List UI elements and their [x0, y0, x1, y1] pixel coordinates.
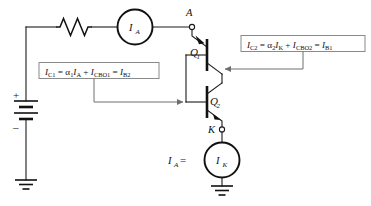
transistor-q2[interactable]: Q 2: [186, 83, 222, 127]
q1-collector-lead: [207, 63, 222, 74]
q1-emitter-lead: [192, 30, 207, 48]
cathode-terminal-label: K: [207, 124, 216, 135]
cathode-source-prefix-sub: A: [173, 161, 179, 169]
equation-left-leader: [94, 79, 183, 103]
cathode-terminal-circle: [219, 127, 224, 132]
cathode-terminal[interactable]: K: [207, 124, 225, 143]
equation-left-text: IC1 = α1IA + ICBO1 = IB2: [44, 67, 131, 78]
resistor-zigzag: [56, 19, 92, 36]
equation-box-left[interactable]: IC1 = α1IA + ICBO1 = IB2: [39, 63, 183, 103]
battery-minus-sign: –: [12, 121, 19, 133]
anode-terminal[interactable]: A: [185, 7, 195, 30]
q1-sublabel: 1: [197, 53, 201, 61]
battery: + –: [12, 89, 38, 180]
cathode-source-equals: =: [180, 154, 186, 166]
cathode-source-label: I: [215, 155, 220, 166]
equation-right-text: IC2 = α2IK + ICBO2 = IB1: [246, 40, 333, 51]
equation-right-leader: [225, 52, 303, 70]
battery-plus-sign: +: [13, 89, 19, 101]
cathode-source-sublabel: K: [222, 161, 228, 169]
cathode-current-source[interactable]: I K: [205, 143, 240, 178]
anode-terminal-circle: [189, 24, 194, 29]
anode-terminal-label: A: [185, 7, 193, 18]
cathode-source-prefix: I: [167, 155, 172, 166]
bottom-ground: [211, 178, 233, 196]
q2-collector-lead: [207, 83, 222, 94]
equation-box-right[interactable]: IC2 = α2IK + ICBO2 = IB1: [225, 36, 365, 70]
q2-sublabel: 2: [217, 102, 221, 110]
cathode-source-equality-label: I A =: [167, 154, 186, 169]
top-supply-branch: [26, 19, 192, 102]
anode-current-source[interactable]: I A: [118, 10, 153, 45]
transistor-q1[interactable]: Q 1: [186, 30, 222, 75]
anode-source-label: I: [128, 22, 133, 33]
circuit-diagram-canvas: I A A Q 1 Q 2: [0, 0, 371, 206]
anode-source-sublabel: A: [135, 28, 141, 36]
left-ground: [15, 180, 37, 189]
circuit-svg: I A A Q 1 Q 2: [0, 0, 371, 206]
